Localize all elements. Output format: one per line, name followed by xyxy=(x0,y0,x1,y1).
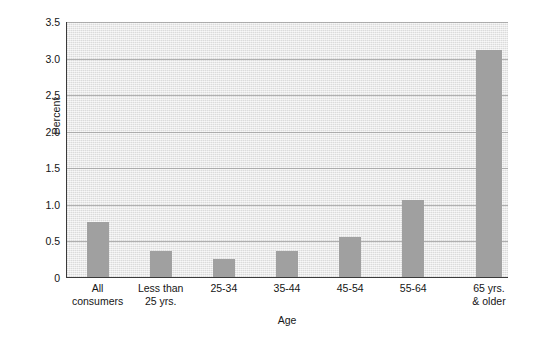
y-tick-label: 1.5 xyxy=(22,163,60,174)
bar xyxy=(339,237,361,277)
y-axis-line xyxy=(66,22,67,278)
gridline xyxy=(66,132,508,133)
x-tick-label: 55-64 xyxy=(370,282,456,295)
y-tick-label: 2.0 xyxy=(22,126,60,137)
bar xyxy=(402,200,424,277)
gridline xyxy=(66,168,508,169)
y-tick-label: 2.5 xyxy=(22,90,60,101)
y-tick-label: 3.0 xyxy=(22,53,60,64)
gridline xyxy=(66,22,508,23)
y-tick-label: 0.5 xyxy=(22,236,60,247)
bar xyxy=(476,50,502,277)
x-axis-line xyxy=(66,277,508,278)
plot-area xyxy=(66,22,508,278)
gridline xyxy=(66,205,508,206)
bar-chart: Percent 00.51.01.52.02.53.03.5 All consu… xyxy=(0,0,545,338)
bar xyxy=(276,251,298,277)
bar xyxy=(213,259,235,277)
plot-texture xyxy=(66,22,508,278)
bar xyxy=(150,251,172,277)
y-tick-label: 1.0 xyxy=(22,199,60,210)
x-tick-label: 65 yrs. & older xyxy=(446,282,532,308)
gridline xyxy=(66,95,508,96)
gridline xyxy=(66,59,508,60)
x-axis-title: Age xyxy=(66,314,508,326)
y-tick-label: 3.5 xyxy=(22,17,60,28)
gridline xyxy=(66,241,508,242)
bar xyxy=(87,222,109,277)
x-axis-tick-labels: All consumersLess than 25 yrs.25-3435-44… xyxy=(66,282,508,314)
